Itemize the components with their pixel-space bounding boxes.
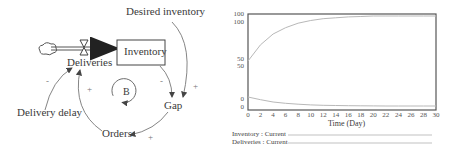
- link-desired-to-gap: [172, 22, 187, 97]
- ytick-100-a: 100: [230, 10, 244, 18]
- xtick: 30: [433, 111, 440, 119]
- label-gap: Gap: [164, 99, 182, 111]
- xtick: 4: [271, 111, 275, 119]
- chart-frame: [248, 14, 436, 110]
- causal-loop-diagram: [0, 0, 455, 152]
- polarity-orders-deliveries: +: [87, 84, 92, 94]
- label-desired-inventory: Desired inventory: [126, 5, 205, 17]
- xtick: 24: [395, 111, 402, 119]
- polarity-gap-orders: +: [148, 132, 153, 142]
- link-delay-to-deliveries: [45, 68, 72, 110]
- x-axis-label: Time (Day): [328, 119, 365, 128]
- label-inventory: Inventory: [124, 45, 167, 57]
- polarity-delay: -: [46, 76, 49, 86]
- xtick: 2: [259, 111, 263, 119]
- xtick: 6: [284, 111, 288, 119]
- label-delivery-delay: Delivery delay: [17, 106, 82, 118]
- ytick-0-b: 0: [230, 103, 244, 111]
- xtick: 18: [357, 111, 364, 119]
- label-deliveries: Deliveries: [67, 56, 112, 68]
- ytick-100-b: 100: [230, 18, 244, 26]
- xtick: 20: [370, 111, 377, 119]
- xtick: 28: [420, 111, 427, 119]
- xtick: 26: [407, 111, 414, 119]
- cloud-source-icon: [39, 43, 57, 55]
- ytick-50-b: 50: [230, 62, 244, 70]
- xtick: 12: [320, 111, 327, 119]
- link-orders-to-deliveries: [78, 70, 102, 131]
- xtick: 22: [382, 111, 389, 119]
- xtick: 10: [307, 111, 314, 119]
- loop-label-b: B: [123, 86, 130, 97]
- xtick: 0: [246, 111, 250, 119]
- polarity-desired-gap: +: [193, 81, 198, 91]
- xtick: 8: [296, 111, 300, 119]
- legend-deliveries: Deliveries : Current: [232, 138, 288, 146]
- label-orders: Orders: [102, 127, 132, 139]
- polarity-inventory-gap: -: [160, 76, 163, 86]
- ytick-0-a: 0: [230, 95, 244, 103]
- xtick: 14: [332, 111, 339, 119]
- xtick: 16: [345, 111, 352, 119]
- legend-inventory: Inventory : Current: [232, 130, 286, 138]
